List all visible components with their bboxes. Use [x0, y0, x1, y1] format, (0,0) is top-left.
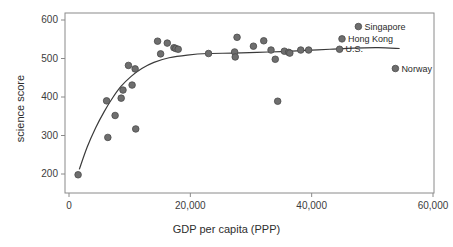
scatter-point — [157, 51, 164, 58]
x-tick-label: 60,000 — [418, 201, 449, 211]
scatter-point — [272, 56, 279, 63]
x-tick-label: 0 — [66, 201, 72, 211]
scatter-point — [164, 40, 171, 47]
scatter-point — [355, 23, 362, 30]
scatter-point — [232, 54, 239, 61]
x-tick-label: 20,000 — [175, 201, 206, 211]
scatter-point — [132, 126, 139, 133]
y-tick-label: 300 — [20, 131, 58, 141]
scatter-point — [129, 82, 136, 89]
scatter-point — [120, 87, 127, 94]
axis-ticks — [61, 20, 433, 197]
scatter-point — [287, 50, 294, 57]
scatter-point — [132, 66, 139, 73]
scatter-point — [339, 36, 346, 43]
scatter-point — [234, 34, 241, 41]
scatter-point — [112, 112, 119, 119]
y-tick-label: 200 — [20, 169, 58, 179]
scatter-point — [205, 50, 212, 57]
science-score-vs-gdp-chart: 200300400500600 020,00040,00060,000 Sing… — [0, 0, 453, 247]
annotation-label: Norway — [401, 64, 432, 73]
scatter-point — [125, 62, 132, 69]
scatter-point — [305, 47, 312, 54]
scatter-point — [392, 65, 399, 72]
scatter-point — [105, 134, 112, 141]
annotation-label: Singapore — [364, 22, 405, 31]
x-tick-label: 40,000 — [296, 201, 327, 211]
annotation-label: Hong Kong — [348, 34, 393, 43]
scatter-point — [336, 46, 343, 53]
scatter-point — [268, 47, 275, 54]
scatter-point — [260, 37, 267, 44]
scatter-point — [175, 46, 182, 53]
y-axis-title: science score — [15, 59, 26, 159]
scatter-point — [274, 98, 281, 105]
scatter-point — [154, 38, 161, 45]
scatter-point — [250, 43, 257, 50]
y-tick-label: 500 — [20, 54, 58, 64]
annotation-label: U.S. — [346, 45, 364, 54]
scatter-point — [75, 171, 82, 178]
scatter-point — [103, 98, 110, 105]
y-tick-label: 600 — [20, 15, 58, 25]
x-axis-title: GDP per capita (PPP) — [0, 224, 453, 235]
scatter-point — [297, 47, 304, 54]
y-tick-label: 400 — [20, 92, 58, 102]
scatter-point — [118, 95, 125, 102]
